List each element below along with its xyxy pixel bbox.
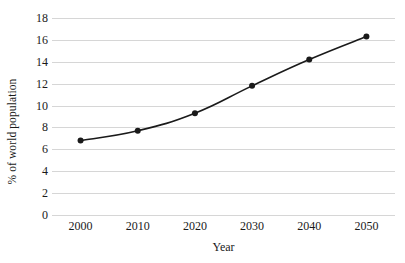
x-tick-label: 2020 [165,220,225,232]
x-axis-tick-labels: 200020102020203020402050 [0,0,405,263]
x-tick-label: 2030 [222,220,282,232]
x-tick-label: 2040 [279,220,339,232]
x-tick-label: 2010 [108,220,168,232]
x-axis-title: Year [52,241,395,253]
x-tick-label: 2000 [51,220,111,232]
x-tick-label: 2050 [336,220,396,232]
line-chart: % of world population 024681012141618 20… [0,0,405,263]
